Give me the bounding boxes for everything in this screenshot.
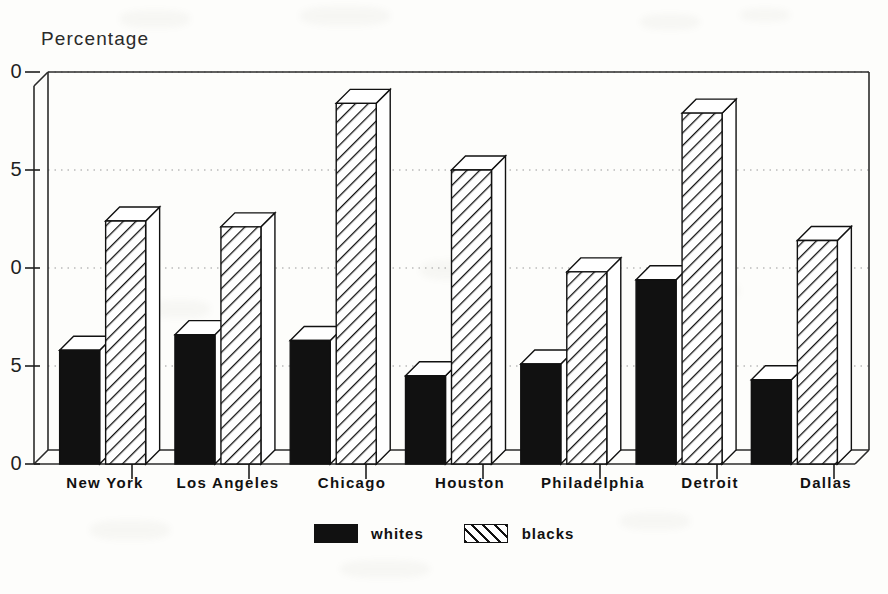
category-label-houston: Houston (435, 474, 505, 491)
category-label-new-york: New York (66, 474, 143, 491)
legend-item-whites: whites (314, 524, 424, 543)
category-label-detroit: Detroit (681, 474, 738, 491)
legend-label-whites: whites (371, 525, 424, 542)
legend-item-blacks: blacks (464, 524, 574, 543)
category-label-philadelphia: Philadelphia (541, 474, 645, 491)
hatched-swatch (464, 524, 508, 543)
category-label-dallas: Dallas (800, 474, 852, 491)
bars-layer (0, 0, 888, 594)
bar-chart: Percentage (0, 0, 888, 594)
legend: whites blacks (0, 524, 888, 543)
category-label-chicago: Chicago (318, 474, 386, 491)
solid-black-swatch (314, 524, 358, 543)
category-label-los-angeles: Los Angeles (177, 474, 280, 491)
legend-label-blacks: blacks (522, 525, 575, 542)
